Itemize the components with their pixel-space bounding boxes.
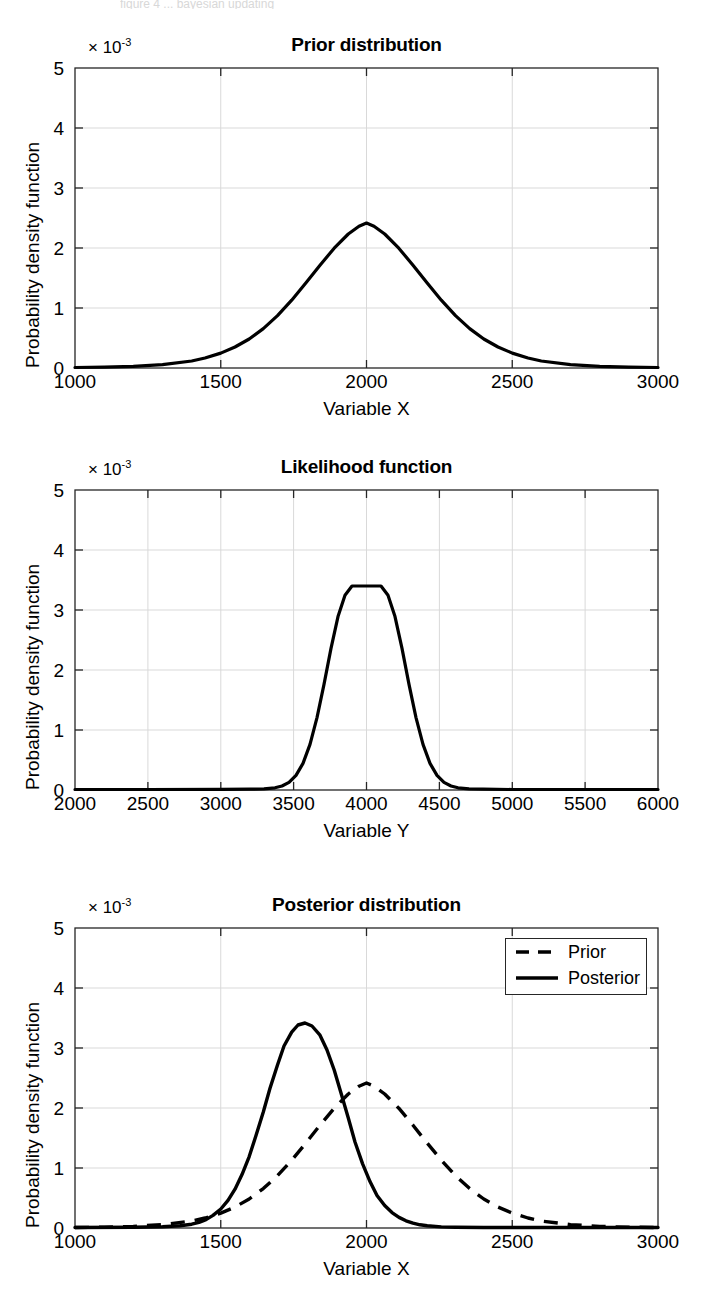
x-tick-label: 1000 [35, 371, 115, 393]
x-tick-label: 2000 [327, 1231, 407, 1253]
x-tick-label: 3500 [254, 793, 334, 815]
x-tick-label: 2500 [472, 371, 552, 393]
chart-likelihood-function: Likelihood function × 10-3 Probability d… [0, 440, 724, 860]
chart-prior-distribution: Prior distribution × 10-3 Probability de… [0, 30, 724, 430]
x-tick-label: 2500 [108, 793, 188, 815]
x-tick-label: 3000 [618, 1231, 698, 1253]
figure-page: figure 4 ... bayesian updating Prior dis… [0, 0, 724, 1305]
plot-area-prior [0, 30, 724, 430]
x-tick-label: 4000 [327, 793, 407, 815]
page-header-ghost-text: figure 4 ... bayesian updating [120, 0, 600, 9]
x-tick-label: 5000 [472, 793, 552, 815]
legend-swatch-dashed-icon [514, 945, 560, 959]
x-axis-label-posterior: Variable X [75, 1258, 658, 1280]
x-tick-label: 2000 [327, 371, 407, 393]
x-tick-label: 5500 [545, 793, 625, 815]
chart-posterior-distribution: Posterior distribution × 10-3 Probabilit… [0, 880, 724, 1300]
x-axis-label-likelihood: Variable Y [75, 820, 658, 842]
legend-label-prior: Prior [568, 942, 606, 963]
x-axis-label-prior: Variable X [75, 398, 658, 420]
legend: Prior Posterior [505, 938, 647, 995]
x-tick-label: 3000 [618, 371, 698, 393]
x-tick-label: 2000 [35, 793, 115, 815]
x-tick-label: 1000 [35, 1231, 115, 1253]
x-tick-label: 2500 [472, 1231, 552, 1253]
legend-label-posterior: Posterior [568, 968, 640, 989]
legend-swatch-solid-icon [514, 971, 560, 985]
x-tick-label: 6000 [618, 793, 698, 815]
x-tick-label: 1500 [181, 1231, 261, 1253]
legend-item-posterior: Posterior [506, 965, 646, 991]
legend-item-prior: Prior [506, 939, 646, 965]
x-tick-label: 4500 [399, 793, 479, 815]
x-tick-label: 3000 [181, 793, 261, 815]
x-tick-label: 1500 [181, 371, 261, 393]
